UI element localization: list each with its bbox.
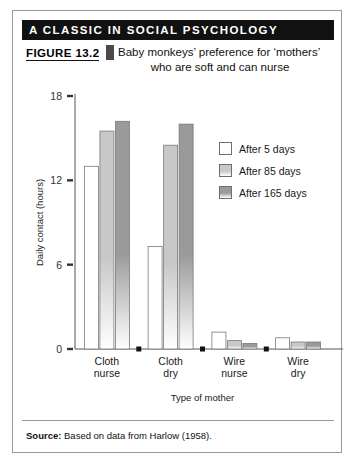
legend-item: After 5 days — [219, 139, 337, 158]
x-category-label: Cloth — [158, 355, 183, 367]
bar — [115, 121, 129, 349]
y-tick-label: 0 — [56, 343, 62, 355]
legend-label: After 165 days — [239, 187, 307, 199]
legend-swatch-icon — [219, 164, 232, 177]
caption-accent-bar — [106, 45, 114, 60]
legend-item: After 165 days — [219, 183, 337, 202]
source-text: Based on data from Harlow (1958). — [61, 430, 212, 441]
caption-text: Baby monkeys’ preference for ‘mothers’ w… — [118, 45, 330, 75]
legend-swatch-icon — [219, 142, 232, 155]
category-separator-tick — [136, 347, 141, 352]
bar — [276, 338, 290, 349]
bar-chart: 061218Daily contact (hours)ClothnurseClo… — [13, 11, 343, 454]
x-category-label: nurse — [221, 367, 247, 379]
x-category-label: Cloth — [95, 355, 120, 367]
source-divider — [22, 420, 334, 421]
x-category-label: Wire — [287, 355, 309, 367]
banner-title: A CLASSIC IN SOCIAL PSYCHOLOGY — [22, 20, 334, 40]
bar — [227, 341, 241, 349]
y-tick-label: 18 — [50, 90, 62, 102]
bar — [307, 342, 321, 349]
chart-canvas: 061218Daily contact (hours)ClothnurseClo… — [13, 11, 343, 454]
figure-number: FIGURE 13.2 — [26, 47, 99, 61]
legend-item: After 85 days — [219, 161, 337, 180]
y-axis-title: Daily contact (hours) — [34, 179, 45, 266]
x-category-label: nurse — [94, 367, 120, 379]
x-category-label: dry — [163, 367, 178, 379]
bar — [212, 332, 226, 349]
source-note: Source: Based on data from Harlow (1958)… — [26, 430, 212, 441]
category-separator-tick — [264, 347, 269, 352]
bar — [100, 131, 114, 349]
x-category-label: dry — [291, 367, 306, 379]
bar — [243, 343, 257, 349]
figure-box: A CLASSIC IN SOCIAL PSYCHOLOGY FIGURE 13… — [12, 10, 342, 453]
bar — [148, 246, 162, 349]
bar — [291, 342, 305, 349]
x-axis-title: Type of mother — [171, 392, 234, 403]
caption-line-2: who are soft and can nurse — [118, 60, 330, 75]
category-separator-tick — [200, 347, 205, 352]
y-tick-label: 6 — [56, 259, 62, 271]
chart-legend: After 5 daysAfter 85 daysAfter 165 days — [219, 139, 337, 205]
legend-label: After 5 days — [239, 143, 295, 155]
source-label: Source: — [26, 430, 61, 441]
x-category-label: Wire — [224, 355, 246, 367]
y-tick-label: 12 — [50, 174, 62, 186]
caption-line-1: Baby monkeys’ preference for ‘mothers’ — [118, 46, 320, 58]
bar — [84, 166, 98, 349]
legend-label: After 85 days — [239, 165, 301, 177]
legend-swatch-icon — [219, 186, 232, 199]
bar — [164, 145, 178, 349]
bar — [179, 124, 193, 349]
